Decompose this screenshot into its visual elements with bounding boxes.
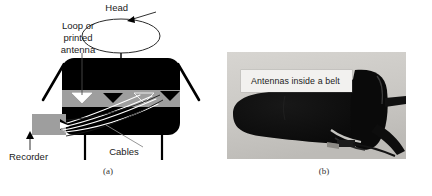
caption-panel-a: (a) — [0, 166, 216, 176]
label-antenna-line3: antenna — [61, 44, 96, 55]
label-antenna-line1: Loop or — [62, 20, 94, 31]
head-leader-line — [133, 12, 156, 19]
belt-photograph: Antennas inside a belt — [227, 52, 406, 159]
figure-container: Head Loop or printed antenna Recorder Ca… — [0, 0, 432, 196]
right-arm — [178, 64, 199, 100]
label-head: Head — [105, 2, 128, 13]
body-worn-antenna-diagram: Head Loop or printed antenna Recorder Ca… — [0, 0, 216, 166]
photo-annotation-label: Antennas inside a belt — [241, 70, 352, 92]
antenna-belt-band — [62, 90, 180, 107]
panel-b-photo: Antennas inside a belt (b) — [216, 0, 432, 196]
caption-panel-b: (b) — [216, 166, 432, 176]
label-cables: Cables — [109, 146, 139, 157]
left-arm — [43, 64, 64, 100]
panel-a-diagram: Head Loop or printed antenna Recorder Ca… — [0, 0, 216, 196]
label-antenna-line2: printed — [63, 32, 92, 43]
belt-photo-graphic — [227, 52, 406, 159]
label-recorder: Recorder — [9, 151, 48, 162]
